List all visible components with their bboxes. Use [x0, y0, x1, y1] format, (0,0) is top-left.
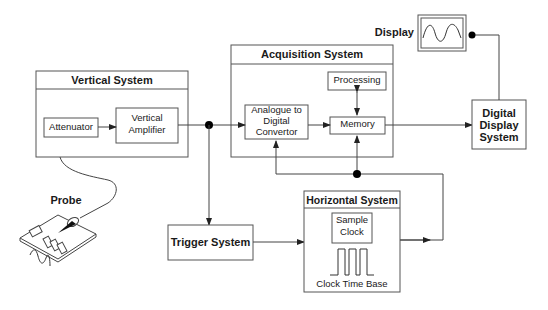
sample-clock-label-2: Clock	[332, 227, 372, 238]
display-junction-dot	[469, 32, 476, 39]
probe-label: Probe	[46, 194, 86, 207]
trigger-system-label: Trigger System	[168, 236, 253, 249]
digital-display-system-label-2: Display	[472, 119, 526, 132]
acquisition-system-title: Acquisition System	[231, 48, 393, 61]
acquisition-system-block	[231, 45, 393, 157]
memory-label: Memory	[330, 119, 385, 130]
clock-junction-dot	[353, 170, 361, 178]
vertical-system-title: Vertical System	[36, 74, 188, 87]
probe-circuit-board-icon	[20, 215, 96, 266]
horizontal-system-block	[304, 191, 400, 292]
adc-label-3: Convertor	[245, 127, 308, 138]
display-system-to-display-line	[472, 35, 499, 100]
attenuator-label: Attenuator	[44, 122, 98, 133]
digital-display-system-label-1: Digital	[472, 107, 526, 120]
vertical-amplifier-label-1: Vertical	[116, 113, 178, 124]
horizontal-system-title: Horizontal System	[304, 194, 400, 206]
vertical-amplifier-label-2: Amplifier	[116, 125, 178, 136]
diagram-canvas	[0, 0, 548, 310]
digital-display-system-label-3: System	[472, 131, 526, 144]
sample-clock-label-1: Sample	[332, 215, 372, 226]
processing-label: Processing	[328, 75, 386, 86]
probe-cable	[60, 157, 116, 218]
display-monitor-icon	[418, 15, 466, 51]
display-label: Display	[370, 26, 414, 39]
clock-time-base-label: Clock Time Base	[304, 279, 400, 290]
